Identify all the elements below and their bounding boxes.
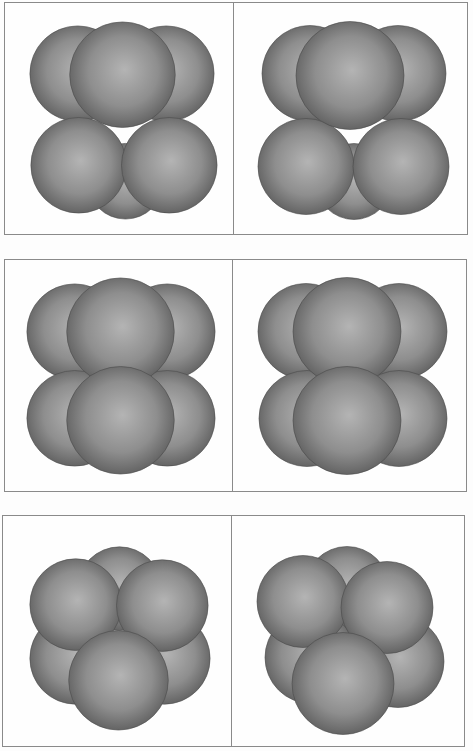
panel-left-view: [3, 516, 232, 746]
stereo-pair-row-3: [2, 515, 465, 747]
panel-right-view: [235, 3, 467, 234]
panel-right-view: [234, 260, 466, 491]
sphere-atom: [296, 22, 404, 130]
panel-left-view: [5, 260, 233, 491]
stereo-pair-row-2: [4, 259, 467, 492]
sphere-atom: [70, 22, 176, 128]
sphere-atom: [353, 119, 449, 215]
sphere-atom: [293, 367, 401, 475]
panel-right-view: [233, 516, 464, 746]
sphere-atom: [258, 119, 354, 215]
stereo-pair-row-1: [4, 2, 468, 235]
sphere-atom: [121, 118, 217, 214]
sphere-atom: [31, 118, 127, 214]
sphere-atom: [69, 631, 169, 731]
panel-left-view: [5, 3, 234, 234]
sphere-atom: [67, 367, 175, 475]
sphere-atom: [292, 633, 394, 735]
